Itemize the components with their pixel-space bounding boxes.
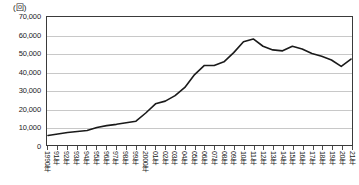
x-tick-label: 14年 <box>280 151 287 165</box>
x-tick <box>96 146 97 150</box>
x-tick-label: 97年 <box>112 151 119 165</box>
x-tick-label: 09年 <box>230 151 237 165</box>
y-tick-label: 10,000 <box>19 123 41 132</box>
x-tick-label: 01年 <box>152 151 159 165</box>
x-tick-label: 02年 <box>162 151 169 165</box>
x-tick-label: 95年 <box>93 151 100 165</box>
y-tick-label: 60,000 <box>19 30 41 39</box>
x-tick-label: 2000年 <box>142 151 149 172</box>
x-tick <box>57 146 58 150</box>
y-tick-label: 50,000 <box>19 49 41 58</box>
x-tick <box>175 146 176 150</box>
x-tick <box>263 146 264 150</box>
x-tick-label: 96年 <box>103 151 110 165</box>
x-tick <box>77 146 78 150</box>
x-tick-label: 21年 <box>349 151 356 165</box>
x-tick <box>244 146 245 150</box>
x-tick-label: 1990年 <box>44 151 51 172</box>
x-tick <box>332 146 333 150</box>
x-tick-label: 20年 <box>339 151 346 165</box>
x-tick <box>204 146 205 150</box>
x-tick <box>322 146 323 150</box>
x-tick <box>342 146 343 150</box>
x-tick <box>283 146 284 150</box>
x-tick <box>254 146 255 150</box>
x-tick <box>313 146 314 150</box>
y-tick-label: 40,000 <box>19 67 41 76</box>
x-tick <box>136 146 137 150</box>
x-axis-labels: 1990年91年92年93年94年95年96年97年98年99年2000年01年… <box>46 151 353 185</box>
x-tick-label: 07年 <box>211 151 218 165</box>
series-polyline <box>48 39 351 136</box>
x-tick-label: 94年 <box>83 151 90 165</box>
x-tick-label: 15年 <box>289 151 296 165</box>
x-tick <box>86 146 87 150</box>
x-tick <box>165 146 166 150</box>
x-tick-label: 03年 <box>171 151 178 165</box>
y-tick-label: 20,000 <box>19 104 41 113</box>
x-tick <box>106 146 107 150</box>
x-tick-label: 18年 <box>319 151 326 165</box>
x-tick <box>234 146 235 150</box>
series-line <box>47 17 352 145</box>
x-tick <box>185 146 186 150</box>
plot-area <box>46 16 353 146</box>
x-tick-label: 11年 <box>250 151 257 164</box>
x-axis-ticks <box>46 146 353 150</box>
x-tick-label: 05年 <box>191 151 198 165</box>
x-tick <box>67 146 68 150</box>
x-tick-label: 93年 <box>73 151 80 165</box>
x-tick-label: 16年 <box>299 151 306 165</box>
x-tick <box>303 146 304 150</box>
y-axis-unit-label: (回) <box>13 1 26 12</box>
x-tick <box>126 146 127 150</box>
x-tick-label: 17年 <box>309 151 316 165</box>
x-tick-label: 13年 <box>270 151 277 165</box>
x-tick-label: 92年 <box>63 151 70 165</box>
x-tick <box>352 146 353 150</box>
x-tick <box>195 146 196 150</box>
x-tick-label: 10年 <box>240 151 247 165</box>
x-tick-label: 04年 <box>181 151 188 165</box>
x-tick <box>155 146 156 150</box>
x-tick-label: 91年 <box>53 151 60 165</box>
x-tick <box>214 146 215 150</box>
x-tick <box>273 146 274 150</box>
y-tick-label: 0 <box>37 142 41 151</box>
y-tick-label: 70,000 <box>19 12 41 21</box>
y-axis-labels: 70,00060,00050,00040,00030,00020,00010,0… <box>0 16 44 146</box>
x-tick <box>293 146 294 150</box>
x-tick <box>145 146 146 150</box>
x-tick-label: 99年 <box>132 151 139 165</box>
x-tick-label: 12年 <box>260 151 267 165</box>
x-tick-label: 06年 <box>201 151 208 165</box>
x-tick-label: 08年 <box>221 151 228 165</box>
x-tick <box>116 146 117 150</box>
line-chart: (回) 70,00060,00050,00040,00030,00020,000… <box>0 0 359 185</box>
x-tick <box>47 146 48 150</box>
y-tick-label: 30,000 <box>19 86 41 95</box>
x-tick-label: 19年 <box>329 151 336 165</box>
x-tick-label: 98年 <box>122 151 129 165</box>
x-tick <box>224 146 225 150</box>
